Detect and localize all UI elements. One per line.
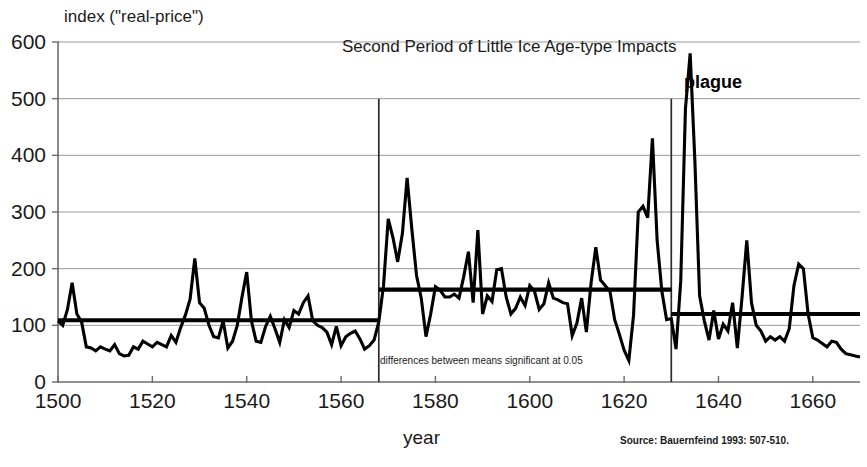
- x-tick-label-1600: 1600: [506, 389, 553, 412]
- y-axis-title: index ("real-price"): [64, 7, 204, 26]
- x-tick-label-1500: 1500: [35, 389, 82, 412]
- chart-svg: 0100200300400500600 15001520154015601580…: [0, 0, 867, 467]
- x-axis-title: year: [403, 427, 441, 448]
- chart-figure: 0100200300400500600 15001520154015601580…: [0, 0, 867, 467]
- period-title: Second Period of Little Ice Age-type Imp…: [342, 37, 677, 56]
- x-tick-label-1560: 1560: [318, 389, 365, 412]
- plague-annotation: plague: [684, 72, 742, 92]
- y-tick-label-200: 200: [11, 257, 46, 280]
- x-tick-label-1660: 1660: [789, 389, 836, 412]
- x-tick-label-1620: 1620: [601, 389, 648, 412]
- x-tick-label-1580: 1580: [412, 389, 459, 412]
- x-tick-labels: 150015201540156015801600162016401660: [35, 389, 837, 412]
- y-tick-label-500: 500: [11, 87, 46, 110]
- significance-note: differences between means significant at…: [380, 355, 583, 366]
- x-tick-label-1540: 1540: [223, 389, 270, 412]
- y-tick-label-600: 600: [11, 30, 46, 53]
- source-citation: Source: Bauernfeind 1993: 507-510.: [620, 435, 789, 446]
- y-tick-label-100: 100: [11, 313, 46, 336]
- y-tick-label-400: 400: [11, 143, 46, 166]
- x-tick-label-1640: 1640: [695, 389, 742, 412]
- y-tick-label-300: 300: [11, 200, 46, 223]
- x-tick-label-1520: 1520: [129, 389, 176, 412]
